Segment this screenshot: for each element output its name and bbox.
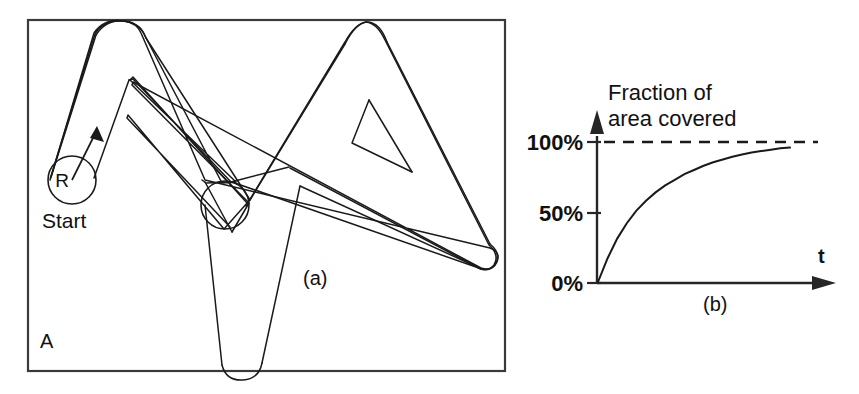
figure-container: R Start A (a) Fraction of area covered [0, 0, 859, 394]
start-label: Start [42, 209, 87, 232]
panel-a-caption: (a) [303, 267, 327, 289]
radius-label: R [55, 170, 69, 191]
chart-title-line2: area covered [608, 106, 736, 131]
figure-svg: R Start A (a) Fraction of area covered [0, 0, 859, 394]
region-label: A [40, 330, 54, 352]
chart-title-line1: Fraction of [608, 80, 713, 105]
panel-b-group: Fraction of area covered 100% 50% 0% t [527, 80, 836, 315]
y-tick-label-100: 100% [527, 130, 583, 155]
x-axis-label: t [818, 245, 825, 267]
region-boundary-rect [28, 20, 505, 371]
coverage-curve [598, 148, 790, 282]
x-axis-arrowhead [812, 276, 836, 290]
y-axis-arrowhead [590, 110, 604, 134]
panel-b-caption: (b) [703, 293, 727, 315]
y-tick-label-0: 0% [551, 271, 583, 296]
y-tick-label-50: 50% [539, 201, 583, 226]
panel-a-group: R Start A (a) [28, 20, 505, 380]
